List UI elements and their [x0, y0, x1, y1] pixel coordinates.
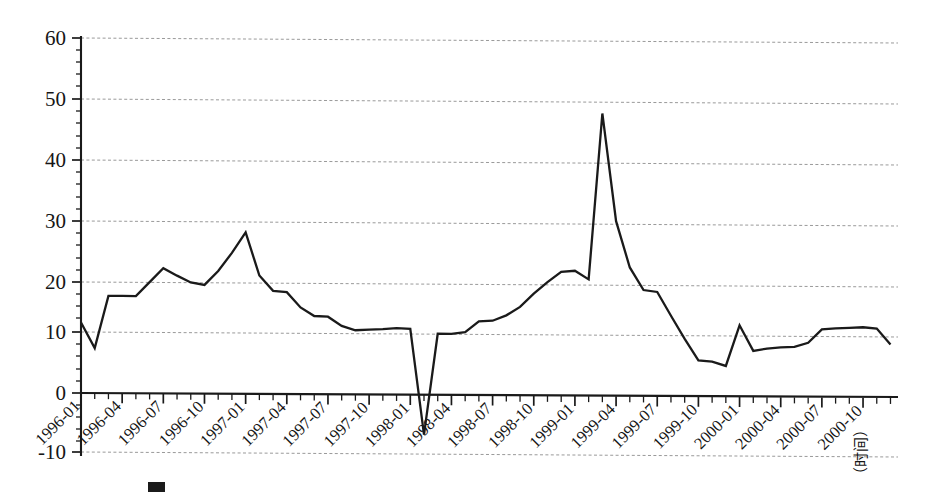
x-tick-label: 1996-10	[155, 397, 207, 449]
x-tick-label: 1997-04	[237, 398, 289, 450]
x-tick-label: 1998-10	[484, 399, 536, 451]
gridline-50	[81, 99, 898, 104]
y-tick-label: 40	[45, 148, 66, 172]
figure-caption-marker	[148, 482, 165, 492]
x-tick-label: 1997-01	[196, 397, 248, 449]
y-tick-labels: 60 50 40 30 20 10 0 -10	[38, 26, 66, 464]
x-tick-label: 2000-07	[772, 401, 824, 453]
gridline-60	[81, 38, 898, 43]
gridline-40	[81, 160, 898, 165]
x-tick-label: 1997-10	[320, 398, 372, 450]
y-tick-label: 60	[45, 26, 66, 50]
x-tick-label: 1996-07	[114, 397, 166, 449]
gridline-30	[81, 221, 898, 226]
x-tick-label: 1999-04	[567, 400, 619, 452]
gridline-minus10	[81, 452, 898, 457]
data-series-line	[81, 113, 890, 434]
figure-caption	[148, 479, 172, 493]
figure-container: 60 50 40 30 20 10 0 -10 1996-011996-0419…	[0, 0, 945, 493]
x-tick-label: 1999-01	[525, 399, 577, 451]
y-tick-label: 50	[45, 87, 66, 111]
line-chart: 60 50 40 30 20 10 0 -10 1996-011996-0419…	[0, 0, 945, 493]
x-axis-line	[81, 393, 898, 397]
y-tick-label: 30	[45, 209, 66, 233]
x-axis-title: （时间）	[853, 422, 869, 482]
x-tick-label: 1998-01	[361, 398, 413, 450]
gridline-10	[81, 332, 898, 337]
x-tick-label: 2000-04	[731, 401, 783, 453]
y-tick-label: 20	[45, 270, 66, 294]
x-tick-label: 1999-10	[649, 400, 701, 452]
x-tick-label: 1997-07	[278, 398, 330, 450]
y-tick-label: 10	[45, 320, 66, 344]
x-tick-labels: 1996-011996-041996-071996-101997-011997-…	[32, 396, 866, 453]
x-tick-label: 1998-07	[443, 399, 495, 451]
x-tick-label: 1999-07	[608, 400, 660, 452]
x-tick-label: 2000-01	[690, 400, 742, 452]
